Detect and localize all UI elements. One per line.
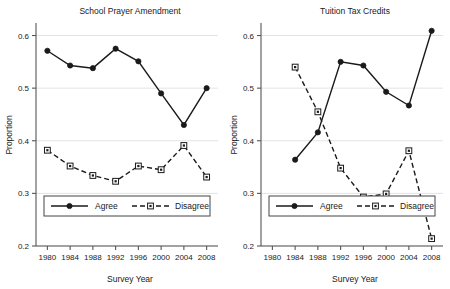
ytick-label-1: 0.3 xyxy=(18,189,30,198)
panel-tuition-tax-credits: 0.20.30.40.50.6 198019841988199219962000… xyxy=(225,0,450,289)
ytick-label-3: 0.5 xyxy=(18,84,30,93)
panel-1-canvas: 0.20.30.40.50.6 198019841988199219962000… xyxy=(225,0,450,289)
data-point-core-disagree-1984 xyxy=(69,165,71,167)
data-point-core-disagree-2008 xyxy=(206,176,208,178)
data-point-agree-2004 xyxy=(181,122,186,127)
data-point-agree-1984 xyxy=(68,63,73,68)
xtick-label-0: 1980 xyxy=(263,253,281,262)
data-point-agree-1980 xyxy=(45,48,50,53)
xtick-label-1: 1984 xyxy=(286,253,304,262)
panel-school-prayer-amendment: 0.20.30.40.50.6 198019841988199219962000… xyxy=(0,0,225,289)
data-point-agree-2000 xyxy=(384,89,389,94)
xtick-label-2: 1988 xyxy=(309,253,327,262)
xtick-label-5: 2000 xyxy=(377,253,395,262)
data-point-agree-1996 xyxy=(361,63,366,68)
ytick-label-2: 0.4 xyxy=(243,137,255,146)
data-point-core-disagree-1980 xyxy=(46,149,48,151)
legend-marker-disagree-core xyxy=(149,205,151,207)
legend-label-disagree[interactable]: Disagree xyxy=(175,201,209,211)
xtick-label-6: 2004 xyxy=(400,253,418,262)
figure-root: 0.20.30.40.50.6 198019841988199219962000… xyxy=(0,0,450,289)
legend-marker-agree xyxy=(292,203,297,208)
data-point-agree-1988 xyxy=(90,66,95,71)
data-point-agree-2008 xyxy=(429,28,434,33)
panel-1-xlabel: Survey Year xyxy=(332,274,378,284)
data-point-core-disagree-1988 xyxy=(92,174,94,176)
legend-label-disagree[interactable]: Disagree xyxy=(400,201,434,211)
xtick-label-2: 1988 xyxy=(84,253,102,262)
data-point-core-disagree-1988 xyxy=(317,111,319,113)
legend-label-agree[interactable]: Agree xyxy=(95,201,118,211)
ytick-label-4: 0.6 xyxy=(18,32,30,41)
data-point-agree-2008 xyxy=(204,86,209,91)
xtick-label-3: 1992 xyxy=(107,253,125,262)
ytick-label-0: 0.2 xyxy=(243,242,255,251)
data-point-core-disagree-2008 xyxy=(431,238,433,240)
legend-label-agree[interactable]: Agree xyxy=(320,201,343,211)
ytick-label-3: 0.5 xyxy=(243,84,255,93)
panel-0-ylabel: Proportion xyxy=(4,115,14,154)
data-point-agree-1984 xyxy=(293,157,298,162)
panel-0-series xyxy=(44,46,209,184)
panel-1-yticks: 0.20.30.40.50.6 xyxy=(243,32,261,251)
panel-0-legend[interactable]: AgreeDisagree xyxy=(44,196,210,216)
legend-marker-agree xyxy=(67,203,72,208)
series-line-agree xyxy=(47,49,206,125)
panel-1-title: Tuition Tax Credits xyxy=(320,6,390,16)
data-point-core-disagree-1996 xyxy=(137,165,139,167)
ytick-label-1: 0.3 xyxy=(243,189,255,198)
panel-1-ylabel: Proportion xyxy=(229,115,239,154)
data-point-core-disagree-1984 xyxy=(294,66,296,68)
xtick-label-1: 1984 xyxy=(61,253,79,262)
panel-0-xticks: 19801984198819921996200020042008 xyxy=(38,246,216,262)
data-point-core-disagree-2000 xyxy=(385,193,387,195)
panel-0-yticks: 0.20.30.40.50.6 xyxy=(18,32,36,251)
ytick-label-2: 0.4 xyxy=(18,137,30,146)
xtick-label-4: 1996 xyxy=(354,253,372,262)
xtick-label-7: 2008 xyxy=(198,253,216,262)
data-point-core-disagree-2004 xyxy=(408,150,410,152)
xtick-label-5: 2000 xyxy=(152,253,170,262)
data-point-agree-1996 xyxy=(136,59,141,64)
xtick-label-3: 1992 xyxy=(332,253,350,262)
xtick-label-6: 2004 xyxy=(175,253,193,262)
data-point-core-disagree-1992 xyxy=(340,167,342,169)
panel-0-xlabel: Survey Year xyxy=(107,274,153,284)
xtick-label-7: 2008 xyxy=(423,253,441,262)
xtick-label-0: 1980 xyxy=(38,253,56,262)
ytick-label-4: 0.6 xyxy=(243,32,255,41)
data-point-core-disagree-2000 xyxy=(160,169,162,171)
data-point-agree-1988 xyxy=(315,130,320,135)
ytick-label-0: 0.2 xyxy=(18,242,30,251)
legend-marker-disagree-core xyxy=(374,205,376,207)
data-point-agree-2004 xyxy=(406,103,411,108)
panel-1-xticks: 19801984198819921996200020042008 xyxy=(263,246,441,262)
panel-0-canvas: 0.20.30.40.50.6 198019841988199219962000… xyxy=(0,0,225,289)
data-point-agree-2000 xyxy=(159,91,164,96)
data-point-core-disagree-2004 xyxy=(183,144,185,146)
panel-0-title: School Prayer Amendment xyxy=(79,6,181,16)
data-point-agree-1992 xyxy=(113,46,118,51)
panel-1-legend[interactable]: AgreeDisagree xyxy=(269,196,435,216)
xtick-label-4: 1996 xyxy=(129,253,147,262)
data-point-core-disagree-1992 xyxy=(115,180,117,182)
data-point-agree-1992 xyxy=(338,59,343,64)
